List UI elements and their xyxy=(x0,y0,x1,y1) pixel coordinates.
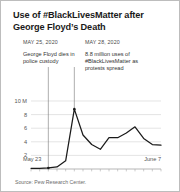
y-axis-tick-label: 10 M xyxy=(15,98,28,104)
annotation-date: MAY 25, 2020 xyxy=(23,39,75,46)
figure-inner: Use of #BlackLivesMatter after George Fl… xyxy=(1,1,179,191)
annotation-marker-dot xyxy=(73,108,76,111)
chart-plot-area: 246810 M xyxy=(9,67,173,181)
source-note: Source: Pew Research Center. xyxy=(15,179,86,185)
chart-figure: Use of #BlackLivesMatter after George Fl… xyxy=(0,0,180,192)
y-axis-tick-label: 4 xyxy=(24,139,27,145)
annotation-marker-dot xyxy=(47,167,50,170)
y-axis-tick-label: 6 xyxy=(24,125,27,131)
x-axis-start-label: May 23 xyxy=(23,156,41,162)
y-axis-tick-labels: 246810 M xyxy=(15,98,28,158)
annotation-date: MAY 28, 2020 xyxy=(85,39,151,46)
annotation-leader-lines xyxy=(48,67,74,168)
x-axis-ticks xyxy=(31,169,161,171)
x-axis-end-label: June 7 xyxy=(144,156,161,162)
page-title: Use of #BlackLivesMatter after George Fl… xyxy=(13,9,165,33)
y-axis-tick-label: 8 xyxy=(24,112,27,118)
annotation-floyd-death: MAY 25, 2020 George Floyd dies in police… xyxy=(23,39,75,65)
annotation-text: George Floyd dies in police custody xyxy=(23,51,75,65)
line-chart-svg: 246810 M xyxy=(9,67,173,181)
annotation-marker-dots xyxy=(47,108,76,169)
data-line xyxy=(31,109,161,168)
